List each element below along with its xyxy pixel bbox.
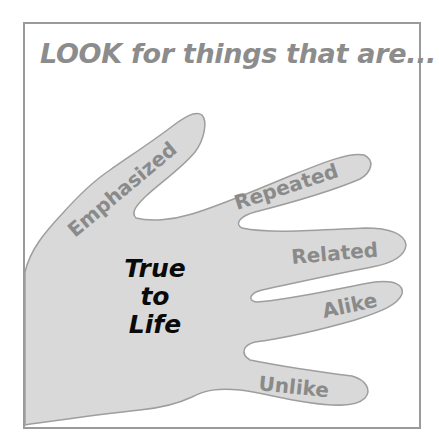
- palm-line-to: to: [100, 283, 210, 311]
- palm-line-life: Life: [100, 311, 210, 339]
- finger-label-repeated: Repeated: [231, 159, 341, 215]
- palm-line-true: True: [100, 255, 210, 283]
- hand-shape: [25, 113, 406, 425]
- hand-illustration: Emphasized Repeated Related Alike Unlike: [0, 0, 439, 445]
- palm-text: True to Life: [100, 255, 210, 339]
